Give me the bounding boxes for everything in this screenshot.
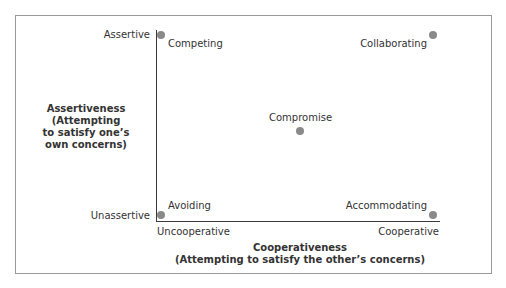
competing-label: Competing	[168, 38, 223, 50]
collaborating-dot	[429, 31, 437, 39]
y-axis-title-line: own concerns)	[30, 139, 142, 151]
compromise-label: Compromise	[269, 112, 332, 124]
cooperativeness-axis-line	[156, 221, 440, 222]
y-axis-title-line: Assertiveness	[30, 103, 142, 115]
y-axis-high-label: Assertive	[104, 29, 150, 41]
x-axis-title: Cooperativeness (Attempting to satisfy t…	[156, 242, 444, 266]
x-axis-high-label: Cooperative	[378, 226, 439, 238]
avoiding-dot	[157, 211, 165, 219]
accommodating-dot	[429, 211, 437, 219]
y-axis-title-line: (Attempting	[30, 115, 142, 127]
compromise-dot	[296, 127, 304, 135]
accommodating-label: Accommodating	[346, 200, 427, 212]
assertiveness-axis-line	[156, 30, 157, 222]
avoiding-label: Avoiding	[168, 200, 211, 212]
y-axis-title-line: to satisfy one’s	[30, 127, 142, 139]
competing-dot	[157, 31, 165, 39]
x-axis-title-line: (Attempting to satisfy the other’s conce…	[156, 254, 444, 266]
y-axis-low-label: Unassertive	[91, 210, 150, 222]
collaborating-label: Collaborating	[360, 38, 427, 50]
x-axis-low-label: Uncooperative	[157, 226, 230, 238]
y-axis-title: Assertiveness (Attempting to satisfy one…	[30, 103, 142, 151]
x-axis-title-line: Cooperativeness	[156, 242, 444, 254]
